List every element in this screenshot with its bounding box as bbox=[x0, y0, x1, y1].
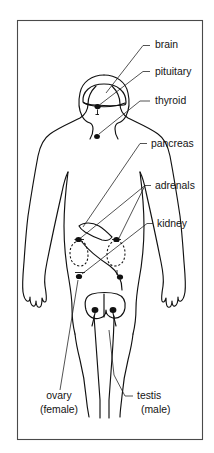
endocrine-system-figure: brain pituitary thyroid pancreas adrenal… bbox=[0, 0, 214, 453]
label-testis: testis bbox=[137, 390, 161, 401]
thyroid-gland bbox=[94, 134, 100, 139]
pituitary-gland bbox=[95, 104, 101, 109]
figure-frame bbox=[18, 21, 203, 440]
testis-left bbox=[92, 307, 99, 313]
label-brain: brain bbox=[155, 39, 178, 50]
ovary-left bbox=[76, 274, 82, 279]
label-testis-qualifier: (male) bbox=[141, 404, 170, 415]
label-kidney: kidney bbox=[157, 218, 188, 229]
label-ovary: ovary bbox=[46, 390, 72, 401]
label-ovary-qualifier: (female) bbox=[40, 404, 78, 415]
ovary-right bbox=[117, 274, 123, 279]
label-pancreas: pancreas bbox=[151, 138, 194, 149]
testis-right bbox=[110, 307, 117, 313]
label-thyroid: thyroid bbox=[155, 95, 186, 106]
label-pituitary: pituitary bbox=[155, 66, 192, 77]
figure-canvas: brain pituitary thyroid pancreas adrenal… bbox=[0, 0, 214, 453]
label-adrenals: adrenals bbox=[155, 180, 195, 191]
